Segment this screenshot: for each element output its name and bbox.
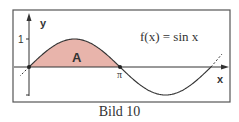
area-label: A: [72, 50, 82, 65]
origin-point: [27, 65, 31, 69]
y-axis-label: y: [40, 17, 47, 29]
y-axis-arrow-icon: [27, 13, 32, 21]
figure-caption: Bild 10: [0, 104, 239, 120]
x-axis-arrow-icon: [221, 65, 229, 70]
function-label: f(x) = sin x: [140, 29, 199, 44]
curve-extension-right: [211, 54, 222, 67]
y-tick-label: 1: [18, 34, 24, 45]
pi-label: π: [117, 69, 122, 80]
x-axis-label: x: [217, 73, 224, 85]
